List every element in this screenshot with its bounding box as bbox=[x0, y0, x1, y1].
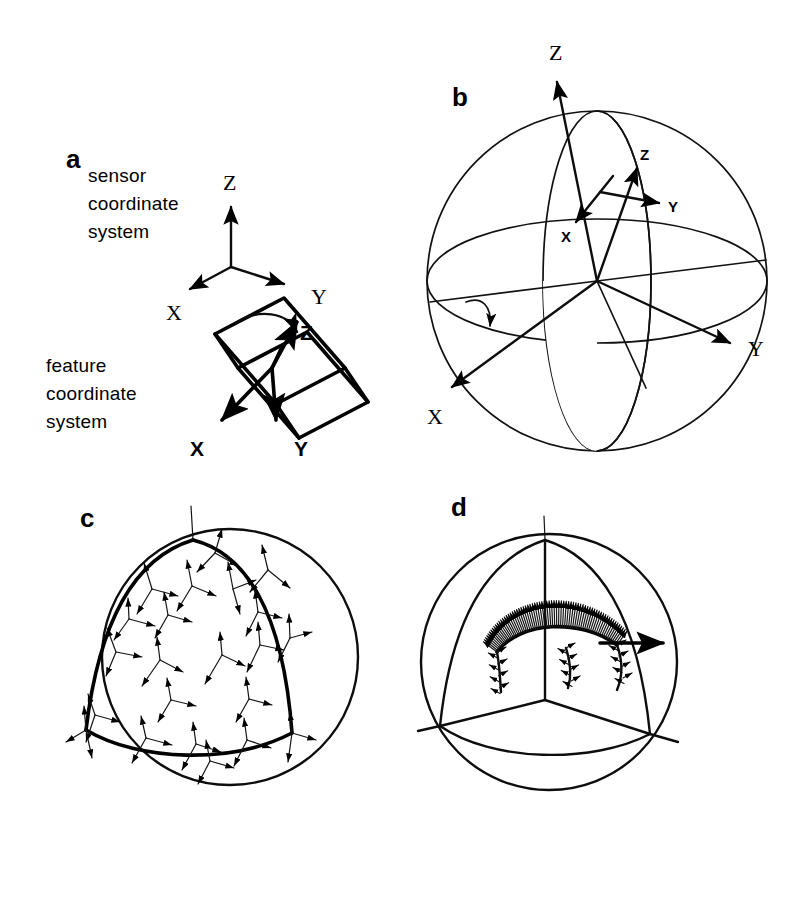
panel-d-interior-edge-right bbox=[545, 700, 650, 734]
panel-d-arc-left bbox=[440, 540, 545, 726]
needle bbox=[563, 601, 564, 627]
feature-axis-y-label: Y bbox=[294, 437, 308, 460]
panel-d-needle-fan bbox=[483, 601, 663, 694]
triad bbox=[278, 614, 312, 662]
panel-a: a sensor coordinate system feature coord… bbox=[46, 144, 368, 460]
panel-c-triad-field bbox=[66, 529, 316, 784]
needle bbox=[549, 601, 551, 627]
triad bbox=[155, 592, 192, 638]
panel-c-arc-bottom bbox=[86, 730, 292, 755]
panel-b: b Z X Y bbox=[427, 40, 767, 451]
caption-line: coordinate bbox=[46, 383, 137, 404]
panel-d-needles bbox=[483, 601, 632, 694]
panel-d-arc-bottom bbox=[440, 726, 650, 755]
triad bbox=[250, 545, 290, 592]
triad bbox=[246, 590, 282, 636]
feature-coordinate-system-caption: feature coordinate system bbox=[46, 355, 137, 432]
panel-c-label: c bbox=[80, 503, 94, 533]
panel-b-local-triad: Z Y X bbox=[561, 146, 678, 281]
sensor-coordinate-system-caption: sensor coordinate system bbox=[88, 165, 179, 242]
needle bbox=[560, 660, 569, 665]
caption-line: coordinate bbox=[88, 193, 179, 214]
feature-axis-z-label: Z bbox=[300, 321, 313, 344]
triad bbox=[177, 560, 216, 611]
feature-rotation-arrow bbox=[236, 314, 297, 332]
triad bbox=[234, 718, 271, 766]
feature-triad: Z X Y bbox=[190, 314, 313, 460]
panel-d: d bbox=[418, 492, 678, 790]
feature-slab bbox=[215, 298, 368, 438]
sensor-triad: Z X Y bbox=[166, 170, 327, 325]
caption-line: system bbox=[46, 411, 107, 432]
panel-c-arc-right bbox=[193, 540, 292, 733]
panel-b-local-y-axis bbox=[600, 192, 659, 203]
panel-b-local-x-label: X bbox=[561, 228, 571, 245]
triad bbox=[132, 716, 172, 763]
sensor-axis-x-label: X bbox=[166, 300, 182, 325]
panel-b-global-x-label: X bbox=[427, 404, 443, 429]
needle bbox=[561, 670, 570, 675]
feature-slab-edge-left bbox=[215, 334, 238, 368]
sensor-axis-y-arrow bbox=[231, 267, 284, 284]
needle bbox=[489, 665, 498, 670]
needle bbox=[567, 602, 569, 627]
panel-d-interior-edge-left bbox=[440, 700, 545, 726]
needle bbox=[611, 657, 620, 662]
needle bbox=[488, 653, 497, 658]
feature-axis-z-stem bbox=[272, 349, 281, 368]
triad bbox=[106, 628, 142, 676]
panel-d-apex-tick bbox=[544, 516, 545, 540]
panel-b-meridian-mask bbox=[543, 281, 597, 451]
sensor-axis-y-label: Y bbox=[311, 284, 327, 309]
panel-b-label: b bbox=[452, 82, 468, 112]
panel-b-global-y-label: Y bbox=[748, 336, 764, 361]
panel-b-spoke-right bbox=[597, 260, 766, 281]
triad bbox=[142, 637, 183, 686]
feature-slab-edge-front bbox=[276, 404, 299, 438]
feature-axis-x-label: X bbox=[190, 437, 204, 460]
caption-line: sensor bbox=[88, 165, 147, 186]
panel-c: c bbox=[66, 503, 358, 785]
needle bbox=[554, 601, 555, 627]
panel-a-label: a bbox=[66, 144, 81, 174]
panel-d-fan-tail-right bbox=[617, 645, 622, 690]
triad bbox=[205, 632, 245, 684]
needle bbox=[623, 673, 632, 678]
triad bbox=[158, 678, 196, 722]
figure-canvas: a sensor coordinate system feature coord… bbox=[0, 0, 795, 901]
panel-b-spoke-down bbox=[597, 281, 646, 388]
feature-slab-edge-right bbox=[345, 368, 368, 402]
feature-axis-y-arrow bbox=[272, 368, 276, 420]
needle bbox=[565, 601, 567, 627]
caption-line: system bbox=[88, 221, 149, 242]
needle bbox=[552, 601, 553, 627]
panel-d-edge-tail-left bbox=[418, 726, 440, 731]
panel-b-global-z-label: Z bbox=[549, 40, 562, 65]
triad bbox=[236, 677, 272, 722]
caption-line: feature bbox=[46, 355, 107, 376]
needle bbox=[491, 689, 500, 694]
sensor-axis-x-arrow bbox=[190, 267, 231, 289]
panel-b-local-z-axis bbox=[597, 168, 637, 281]
needle bbox=[561, 601, 562, 627]
sensor-axis-z-label: Z bbox=[223, 170, 236, 195]
panel-d-label: d bbox=[451, 492, 467, 522]
figure-root: a sensor coordinate system feature coord… bbox=[0, 0, 795, 901]
panel-b-local-z-label: Z bbox=[640, 146, 649, 163]
panel-b-local-y-label: Y bbox=[668, 198, 678, 215]
needle bbox=[566, 643, 575, 648]
needle bbox=[571, 676, 580, 681]
panel-d-edge-tail-right bbox=[650, 734, 678, 742]
needle bbox=[490, 677, 499, 682]
panel-b-global-y-axis bbox=[597, 281, 730, 343]
